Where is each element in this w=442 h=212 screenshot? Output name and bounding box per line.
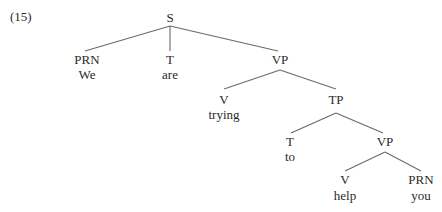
example-number: (15) [10, 9, 32, 24]
node-t2: T [286, 134, 294, 149]
word-to: to [285, 149, 295, 164]
edge-s-vp [170, 26, 278, 51]
edge-vp-tp [280, 70, 336, 89]
edge-tp-vp [336, 113, 383, 133]
word-help: help [334, 188, 356, 203]
edge-vp2-v [345, 152, 385, 171]
tree-nodes: S PRN We T are VP V trying TP T to VP V … [74, 10, 434, 203]
word-you: you [411, 188, 431, 203]
edge-s-prn [85, 26, 170, 51]
tree-edges [85, 26, 421, 171]
word-trying: trying [208, 107, 240, 122]
node-prn2: PRN [408, 172, 434, 187]
node-s: S [166, 10, 173, 25]
edge-vp-v [224, 70, 280, 89]
word-we: We [79, 67, 96, 82]
edge-vp2-prn [385, 152, 421, 171]
syntax-tree: (15) S PRN We T are VP V trying TP T to … [0, 0, 442, 212]
node-vp2: VP [377, 134, 394, 149]
node-vp: VP [272, 52, 289, 67]
node-v: V [219, 92, 229, 107]
word-are: are [162, 67, 178, 82]
edge-tp-t [291, 113, 336, 133]
node-t: T [166, 52, 174, 67]
node-tp: TP [328, 92, 343, 107]
node-v2: V [340, 172, 350, 187]
node-prn: PRN [74, 52, 100, 67]
